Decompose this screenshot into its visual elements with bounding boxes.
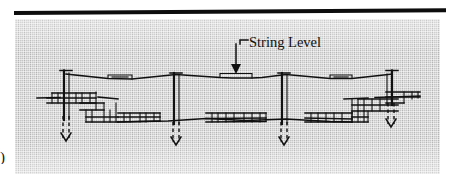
callout-label-string-level: String Level bbox=[249, 34, 321, 50]
figure-string-level: ) .ln { stroke:#111; stroke-width:1.5; f… bbox=[0, 0, 458, 188]
ground-boards-left bbox=[118, 113, 160, 122]
callout-leader-line bbox=[231, 40, 248, 74]
illustration-artwork: .ln { stroke:#111; stroke-width:1.5; fil… bbox=[0, 0, 458, 188]
corner-stake-left bbox=[60, 71, 72, 142]
batter-boards-left bbox=[47, 92, 118, 122]
batter-boards-right bbox=[352, 92, 420, 122]
intermediate-stake-1 bbox=[170, 73, 182, 145]
intermediate-stake-2 bbox=[278, 73, 290, 145]
